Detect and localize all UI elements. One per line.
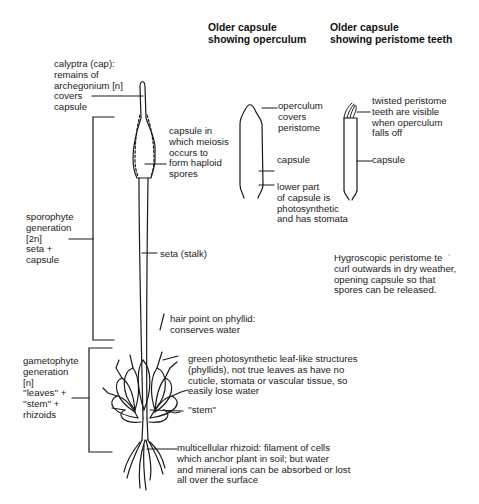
label-twisted-peristome: twisted peristome teeth are visible when… — [372, 96, 447, 139]
label-sporophyte: sporophyte generation [2n] seta + capsul… — [26, 212, 73, 266]
sporophyte-bracket — [93, 117, 114, 340]
heading-peristome-capsule: Older capsule showing peristome teeth — [330, 22, 452, 47]
label-lower-part: lower part of capsule is photosynthetic … — [277, 182, 348, 225]
seta-drawing — [139, 178, 148, 418]
label-operculum: operculum covers peristome — [278, 101, 323, 133]
label-phyllids: green photosynthetic leaf-like structure… — [188, 354, 358, 397]
heading-operculum-capsule: Older capsule showing operculum — [208, 22, 306, 47]
label-hygroscopic: Hygroscopic peristome te ʿ curl outwards… — [334, 253, 456, 296]
operculum-capsule-drawing — [240, 105, 263, 198]
label-capsule-a: capsule — [277, 155, 310, 166]
label-hair-point: hair point on phyllid: conserves water — [170, 314, 255, 336]
label-capsule-b: capsule — [372, 155, 405, 166]
gametophyte-bracket — [89, 348, 112, 452]
rhizoids-drawing — [124, 418, 165, 490]
label-calyptra: calyptra (cap): remains of archegonium [… — [54, 59, 123, 113]
label-seta: seta (stalk) — [160, 249, 207, 260]
phyllids-drawing — [103, 352, 188, 422]
capsule-inner-dashed — [135, 115, 154, 176]
peristome-teeth — [344, 103, 356, 118]
label-gametophyte: gametophyte generation [n] ''leaves'' + … — [23, 356, 78, 421]
label-rhizoid: multicellular rhizoid: filament of cells… — [177, 443, 350, 486]
label-stem: ''stem'' — [188, 405, 216, 416]
label-capsule-meiosis: capsule in which meiosis occurs to form … — [169, 126, 229, 180]
